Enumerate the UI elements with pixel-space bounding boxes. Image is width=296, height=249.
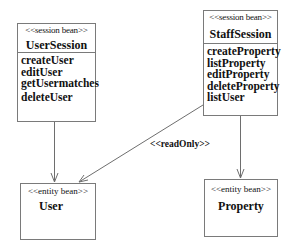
stereotype-label: <<session bean>> [18,24,95,36]
class-name: UserSession [18,36,95,52]
class-user[interactable]: <<entity bean>> User [20,183,96,240]
operation-item: createUser [21,55,95,67]
class-staffsession[interactable]: <<session bean>> StaffSession createProp… [203,10,278,116]
stereotype-label: <<entity bean>> [21,184,95,197]
class-name: StaffSession [204,23,277,41]
operation-item: editProperty [207,69,277,81]
class-header: <<session bean>> StaffSession [204,11,277,44]
operations-list: createProperty listProperty editProperty… [204,44,277,104]
stereotype-label: <<session bean>> [204,11,277,23]
class-name: Property [205,195,277,213]
operation-item: createProperty [207,46,277,58]
class-name: User [21,197,95,213]
operations-list: createUser editUser getUsermatches delet… [18,53,95,103]
stereotype-label: <<entity bean>> [205,180,277,195]
operation-item: deleteUser [21,92,95,104]
class-usersession[interactable]: <<session bean>> UserSession createUser … [17,23,96,122]
operation-item: listUser [207,92,277,104]
class-property[interactable]: <<entity bean>> Property [204,179,278,237]
class-header: <<session bean>> UserSession [18,24,95,53]
operation-item: getUsermatches [21,78,95,90]
arrowhead-icon [79,175,88,182]
relationship-label-readonly: <<readOnly>> [150,139,210,149]
